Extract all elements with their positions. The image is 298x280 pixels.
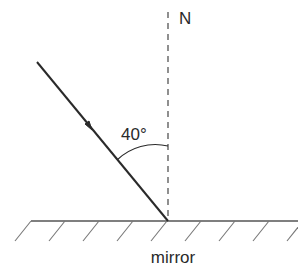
mirror-label: mirror [151,248,196,267]
incident-ray [37,62,168,221]
angle-arc [117,145,168,160]
reflection-diagram: N 40° mirror [0,0,298,280]
normal-label: N [179,9,191,28]
mirror-hatching [15,221,298,241]
angle-label: 40° [121,125,147,144]
